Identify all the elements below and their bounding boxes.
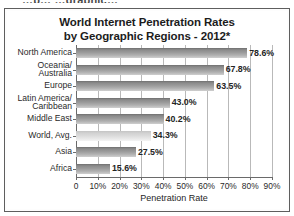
bar-value-label: 34.3% [153,130,178,141]
category-label: Africa [50,164,72,173]
x-axis-tick [228,177,229,180]
chart-title-line-1: World Internet Penetration Rates [7,16,287,30]
bar: 34.3% [76,131,151,141]
x-axis-tick [163,177,164,180]
x-axis-tick [250,177,251,180]
bar-value-label: 43.0% [172,97,197,108]
category-label: Latin America/Caribbean [18,94,72,111]
bar-value-label: 78.6% [249,48,274,59]
bar: 67.8% [76,65,224,75]
y-axis-tick [73,152,76,153]
category-label-line: Africa [50,164,72,173]
category-label-line: Middle East [27,114,72,123]
y-axis-tick [73,70,76,71]
x-axis-tick [98,177,99,180]
category-label: North America [18,48,72,57]
x-axis-tick-label: 50% [176,181,193,191]
clipped-page-caption: …p… …graphic… [22,0,132,3]
category-label: Asia [55,147,72,156]
y-axis-tick [73,53,76,54]
x-axis-tick-label: 40% [155,181,172,191]
bar-value-label: 67.8% [226,64,251,75]
gridline-90 [272,45,273,177]
x-axis-tick-label: 70% [220,181,237,191]
bar-value-label: 63.5% [216,81,241,92]
category-label: Middle East [27,114,72,123]
category-label-line: World, Avg. [28,131,72,140]
x-axis-tick-label: 90% [264,181,281,191]
y-axis-tick [73,136,76,137]
x-axis-tick-label: 0 [74,181,79,191]
bar-value-label: 15.6% [112,163,137,174]
bar-value-label: 27.5% [138,147,163,158]
category-label-line: North America [18,48,72,57]
category-label-line: Asia [55,147,72,156]
y-axis-tick [73,169,76,170]
category-label-line: Caribbean [18,102,72,111]
x-axis-tick-label: 20% [111,181,128,191]
category-label: World, Avg. [28,131,72,140]
bar: 40.2% [76,114,164,124]
chart-figure-inner: World Internet Penetration Rates by Geog… [7,11,287,209]
category-label-line: Australia [38,69,72,78]
chart-title: World Internet Penetration Rates by Geog… [7,16,287,43]
category-label: Europe [44,81,72,90]
x-axis-tick [272,177,273,180]
x-axis-zone: 010%20%30%40%50%60%70%80%90% Penetration… [76,177,272,211]
x-axis-tick [185,177,186,180]
bar: 43.0% [76,98,170,108]
x-axis-title: Penetration Rate [76,193,272,203]
x-axis-tick [76,177,77,180]
category-label-line: Europe [44,81,72,90]
x-axis-tick [120,177,121,180]
chart-figure-frame: World Internet Penetration Rates by Geog… [4,8,290,212]
y-axis-tick [73,119,76,120]
x-axis-tick-label: 80% [242,181,259,191]
y-axis-tick [73,86,76,87]
x-axis-tick-label: 30% [133,181,150,191]
bar: 78.6% [76,48,247,58]
category-label: Oceania/Australia [38,61,72,78]
y-axis-tick [73,103,76,104]
bar: 27.5% [76,147,136,157]
x-axis-tick [207,177,208,180]
plot-area: 78.6%67.8%63.5%43.0%40.2%34.3%27.5%15.6%… [76,45,272,177]
x-axis-tick-label: 10% [89,181,106,191]
bar-value-label: 40.2% [166,114,191,125]
bar: 15.6% [76,164,110,174]
chart-title-line-2: by Geographic Regions - 2012* [7,30,287,44]
x-axis-tick-label: 60% [198,181,215,191]
bar: 63.5% [76,81,214,91]
x-axis-tick [141,177,142,180]
